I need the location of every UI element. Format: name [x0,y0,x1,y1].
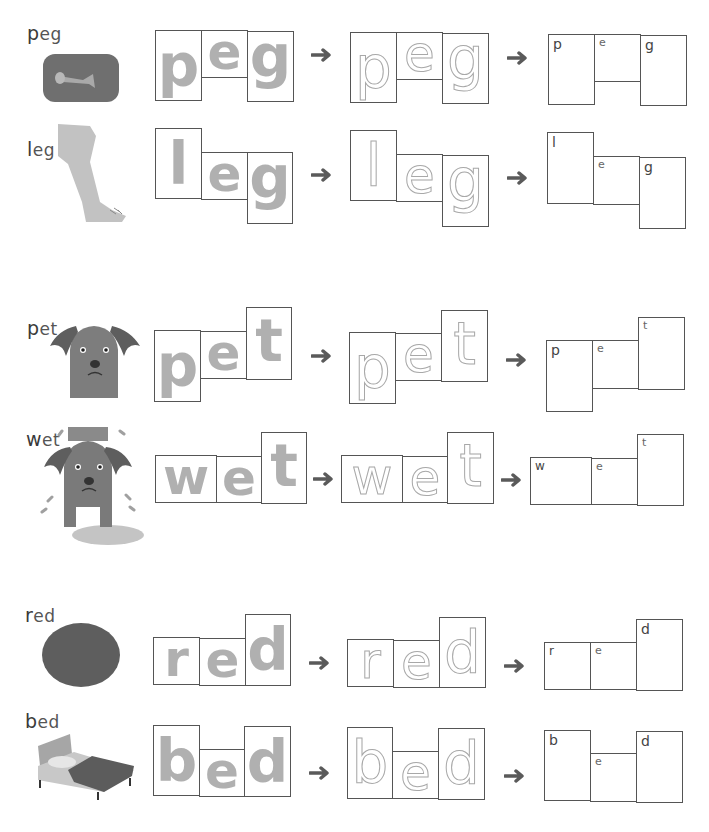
write-box-w[interactable]: w [530,457,592,505]
hint-letter: d [641,734,650,748]
trace-box-l: l [155,128,202,199]
write-box-t[interactable]: t [638,317,685,390]
dashed-box-d: d [439,617,486,688]
dashed-letter: d [439,735,484,793]
dashed-box-e: e [393,640,440,688]
dashed-box-p: p [350,32,397,103]
hint-letter: g [645,38,654,52]
trace-box-e: e [200,331,247,379]
trace-letter: d [245,733,290,791]
trace-letter: p [155,337,200,395]
trace-box-r: r [153,637,200,685]
trace-letter: e [200,635,245,685]
dashed-box-e: e [396,32,443,80]
dashed-box-r: r [347,639,394,687]
trace-letter: g [248,149,292,207]
dashed-box-b: b [347,727,393,799]
hint-letter: e [595,645,602,656]
hint-letter: p [553,37,562,51]
hint-letter: l [552,135,556,149]
trace-box-b: b [153,725,200,796]
write-box-e[interactable]: e [594,34,641,82]
trace-letter: e [201,328,246,378]
trace-box-e: e [216,456,262,503]
hint-letter: e [599,37,606,48]
hint-letter: w [535,460,545,472]
hint-letter: e [597,343,604,354]
trace-letter: e [202,149,247,199]
dashed-box-l: l [350,130,397,201]
write-box-e[interactable]: e [590,753,637,802]
dashed-box-g: g [442,33,489,104]
write-box-g[interactable]: g [640,35,687,106]
write-box-e[interactable]: e [593,156,640,205]
word-rest: ed [38,712,60,732]
dog-picture [48,320,142,400]
right-arrow-icon [507,171,529,185]
right-arrow-icon [501,473,523,487]
right-arrow-icon [313,472,335,486]
write-box-l[interactable]: l [547,132,594,204]
dashed-letter: e [397,151,442,201]
trace-letter: d [246,621,290,679]
trace-box-p: p [155,30,202,101]
hint-letter: d [641,622,650,636]
dashed-letter: r [348,636,393,686]
leg-picture [56,122,130,222]
trace-box-t: t [261,432,307,504]
hint-letter: g [644,160,653,174]
dashed-letter: w [342,452,402,502]
dashed-letter: l [351,137,396,195]
right-arrow-icon [311,48,333,62]
trace-box-d: d [244,726,291,797]
trace-box-g: g [247,152,293,224]
dashed-box-e: e [396,154,443,202]
write-box-d[interactable]: d [636,619,683,691]
trace-letter: r [154,634,199,684]
trace-letter: e [202,27,247,77]
dashed-letter: g [443,30,488,88]
right-arrow-icon [309,656,331,670]
dashed-letter: t [448,437,493,495]
right-arrow-icon [506,353,528,367]
hint-letter: r [549,645,554,657]
trace-box-e: e [199,638,246,686]
trace-box-e: e [201,152,248,200]
trace-letter: b [154,732,199,790]
word-label-leg: leg [27,140,55,159]
word-rest: eg [40,24,62,44]
hint-letter: t [642,437,646,448]
write-box-r[interactable]: r [544,642,591,690]
dashed-letter: p [350,339,395,397]
write-box-d[interactable]: d [636,731,683,803]
right-arrow-icon [504,769,526,783]
dashed-box-w: w [341,455,403,503]
write-box-e[interactable]: e [590,642,637,690]
trace-box-e: e [199,749,245,797]
word-first-letter: p [27,317,40,339]
word-first-letter: p [27,22,40,44]
trace-box-e: e [201,30,248,78]
bed-picture [34,732,138,804]
dashed-letter: e [397,29,442,79]
dashed-letter: d [440,624,485,682]
dashed-letter: e [394,637,439,687]
dashed-letter: t [442,315,487,373]
dashed-box-e: e [402,456,448,503]
hint-letter: e [595,756,602,767]
write-box-e[interactable]: e [592,340,639,389]
word-label-peg: peg [27,24,62,43]
write-box-g[interactable]: g [639,157,686,229]
hint-letter: e [596,461,603,472]
write-box-t[interactable]: t [637,434,684,506]
hint-letter: e [598,159,605,170]
hint-letter: b [549,733,558,747]
hint-letter: t [643,320,647,331]
write-box-p[interactable]: p [546,340,593,412]
write-box-e[interactable]: e [591,458,638,505]
write-box-p[interactable]: p [548,34,595,105]
dashed-letter: e [393,748,438,798]
dashed-letter: e [403,453,447,503]
wet-dog-picture [38,427,144,549]
write-box-b[interactable]: b [544,730,591,801]
